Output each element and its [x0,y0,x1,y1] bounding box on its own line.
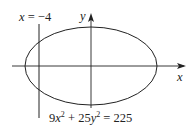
vertical-line-label: x = −4 [18,10,52,24]
ellipse-diagram: x = −4 y x 9x2 + 25y2 = 225 [0,0,194,130]
ellipse-equation: 9x2 + 25y2 = 225 [49,110,132,125]
x-axis-label: x [176,70,183,84]
y-axis-label: y [78,9,86,23]
